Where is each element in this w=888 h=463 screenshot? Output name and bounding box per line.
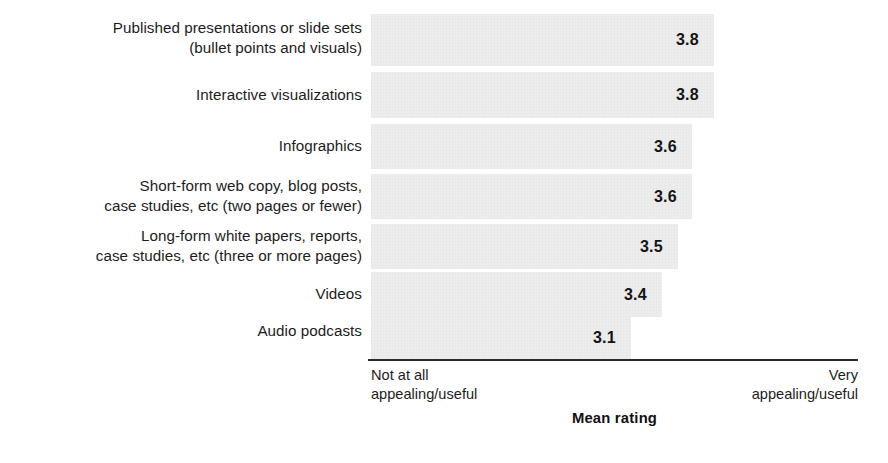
category-label: Published presentations or slide sets (b… [0, 18, 362, 57]
chart-row: Audio podcasts 3.1 [0, 317, 888, 359]
chart-row: Published presentations or slide sets (b… [0, 14, 888, 66]
bar [371, 124, 692, 169]
bar [371, 317, 631, 359]
chart-row: Short-form web copy, blog posts, case st… [0, 174, 888, 219]
bar-track: 3.5 [371, 224, 888, 269]
bar-track: 3.4 [371, 272, 888, 317]
category-label: Interactive visualizations [0, 85, 362, 105]
bar-value-label: 3.6 [654, 138, 677, 156]
bar-value-label: 3.4 [624, 286, 647, 304]
bar [371, 224, 678, 269]
bar-track: 3.1 [371, 317, 888, 359]
chart-row: Interactive visualizations 3.8 [0, 72, 888, 118]
axis-right-endpoint-label: Very appealing/useful [752, 366, 858, 403]
category-label: Infographics [0, 136, 362, 156]
bar [371, 174, 692, 219]
bar-value-label: 3.8 [676, 86, 699, 104]
bar-track: 3.6 [371, 124, 888, 169]
category-label: Videos [0, 284, 362, 304]
bar-value-label: 3.6 [654, 188, 677, 206]
chart-row: Videos 3.4 [0, 272, 888, 317]
category-label: Audio podcasts [0, 321, 362, 341]
bar [371, 14, 714, 66]
bar [371, 272, 662, 317]
axis-left-endpoint-label: Not at all appealing/useful [371, 366, 477, 403]
chart-row: Long-form white papers, reports, case st… [0, 224, 888, 269]
chart-row: Infographics 3.6 [0, 124, 888, 169]
category-label: Short-form web copy, blog posts, case st… [0, 176, 362, 215]
bar-chart: Published presentations or slide sets (b… [0, 0, 888, 463]
bar-value-label: 3.5 [640, 238, 663, 256]
bar-track: 3.8 [371, 72, 888, 118]
x-axis-title: Mean rating [371, 410, 858, 426]
bar-track: 3.6 [371, 174, 888, 219]
bar-track: 3.8 [371, 14, 888, 66]
bar-value-label: 3.1 [593, 329, 616, 347]
bar-value-label: 3.8 [676, 31, 699, 49]
category-label: Long-form white papers, reports, case st… [0, 226, 362, 265]
x-axis-line [368, 359, 858, 361]
bar [371, 72, 714, 118]
